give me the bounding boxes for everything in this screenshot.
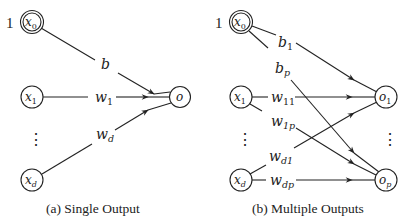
node-x0-b: x0 [230,11,253,34]
ellipsis-inputs-b: ⋮ [237,131,253,148]
edge-label-bp: bp [275,60,290,78]
bias-value-label-b: 1 [215,15,223,31]
ellipsis-outputs: ⋮ [382,131,398,148]
edge-w1p [250,104,376,175]
node-o1: o1 [375,86,397,108]
edge-label-w11: w11 [271,89,295,107]
edge-label-b1: b1 [278,34,293,52]
node-x1-b: x1 [230,86,252,108]
edge-b1 [252,26,377,92]
bias-value-label: 1 [6,15,14,31]
edge-label-w1: w1 [95,89,113,107]
panel-single-output: b w1 wd 1 x0 x1 ⋮ x [6,11,191,217]
node-xd: xd [21,169,43,191]
edge-label-wdp: wdp [270,172,294,190]
node-o: o [170,87,191,108]
edge-label-w1p: w1p [271,113,295,131]
edge-label-wd: wd [96,126,114,144]
caption-single-output: (a) Single Output [46,201,140,216]
edge-label-b: b [101,56,110,72]
edge-label-wd1: wd1 [269,148,293,166]
ellipsis-inputs: ⋮ [28,131,44,148]
caption-multiple-outputs: (b) Multiple Outputs [252,201,364,216]
node-x1: x1 [21,86,43,108]
panel-multiple-outputs: b1 bp w11 w1p wd1 wdp 1 x0 [215,11,398,217]
node-x0: x0 [21,11,44,34]
node-label-o: o [176,90,183,104]
node-op: op [375,169,397,191]
neural-network-diagram: b w1 wd 1 x0 x1 ⋮ x [0,0,410,220]
node-xd-b: xd [230,169,252,191]
